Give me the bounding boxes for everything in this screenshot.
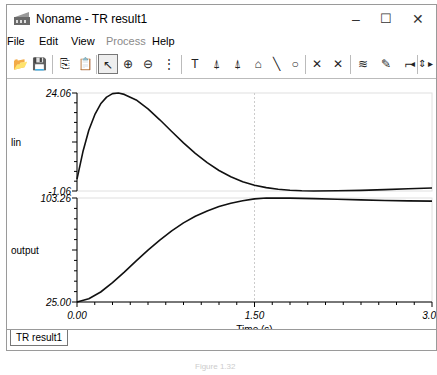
marker-b-icon[interactable]: ✕ — [328, 54, 348, 74]
toolbar: 📂💾⎘📋↖⊕⊖⋮T⍋⍋⌂╲○✕✕≋✎⌐◂⇕▸ — [7, 52, 436, 79]
pen-icon[interactable]: ✎ — [376, 54, 396, 74]
title-bar[interactable]: Noname - TR result1 – ☐ ✕ — [7, 5, 436, 32]
y-tick-label: 25.00 — [45, 297, 71, 308]
toolbar-separator — [417, 55, 418, 74]
circle-icon[interactable]: ○ — [285, 54, 305, 74]
y-tick-label: 24.06 — [45, 88, 71, 99]
toolbar-separator — [52, 55, 53, 74]
toolbar-separator — [181, 55, 182, 74]
figure-caption: Figure 1.32 — [195, 362, 235, 371]
save-icon[interactable]: 💾 — [29, 54, 49, 74]
y-axis-label: output — [11, 245, 39, 256]
maximize-button[interactable]: ☐ — [371, 9, 401, 29]
x-tick-label: 3.00 — [422, 310, 436, 321]
scroll-left-icon[interactable]: ◂ — [408, 54, 417, 74]
close-button[interactable]: ✕ — [403, 9, 433, 29]
y-axis-label: lin — [11, 137, 21, 148]
chart-svg: 24.06-1.06lin103.2625.00output0.001.503.… — [7, 79, 436, 329]
scroll-updown-icon[interactable]: ⇕ — [417, 54, 426, 74]
x-tick-label: 1.50 — [245, 310, 265, 321]
menu-process[interactable]: Process — [106, 35, 146, 47]
line-icon[interactable]: ╲ — [266, 54, 286, 74]
menu-help[interactable]: Help — [152, 35, 175, 47]
x-tick-label: 0.00 — [67, 310, 87, 321]
menu-edit[interactable]: Edit — [39, 35, 58, 47]
app-icon — [14, 12, 30, 25]
tab-bar: TR result1 — [7, 329, 436, 350]
toolbar-separator — [96, 55, 97, 74]
y-tick-label: 103.26 — [40, 193, 71, 204]
menu-file[interactable]: File — [7, 35, 25, 47]
pointer-icon[interactable]: ↖ — [98, 54, 118, 74]
add-curve-icon[interactable]: ≋ — [353, 54, 373, 74]
cursor-a-icon[interactable]: ⍋ — [206, 54, 226, 74]
scroll-right-icon[interactable]: ▸ — [426, 54, 435, 74]
open-icon[interactable]: 📂 — [10, 54, 30, 74]
zoom-out-icon[interactable]: ⊖ — [138, 54, 158, 74]
menu-view[interactable]: View — [71, 35, 95, 47]
curve-label-icon[interactable]: ⌂ — [248, 54, 268, 74]
app-window: Noname - TR result1 – ☐ ✕ File Edit View… — [6, 4, 437, 351]
toolbar-separator — [350, 55, 351, 74]
grid-icon[interactable]: ⋮ — [159, 54, 179, 74]
cursor-b-icon[interactable]: ⍋ — [227, 54, 247, 74]
paste-icon[interactable]: 📋 — [75, 54, 95, 74]
zoom-in-icon[interactable]: ⊕ — [118, 54, 138, 74]
window-title: Noname - TR result1 — [36, 12, 147, 26]
plot-area: 24.06-1.06lin103.2625.00output0.001.503.… — [7, 79, 436, 349]
minimize-button[interactable]: – — [341, 9, 371, 29]
copy-icon[interactable]: ⎘ — [55, 54, 75, 74]
toolbar-separator — [305, 55, 306, 74]
tab-tr-result1[interactable]: TR result1 — [10, 330, 68, 346]
marker-a-icon[interactable]: ✕ — [307, 54, 327, 74]
menu-bar: File Edit View Process Help — [7, 32, 436, 52]
text-icon[interactable]: T — [185, 54, 205, 74]
